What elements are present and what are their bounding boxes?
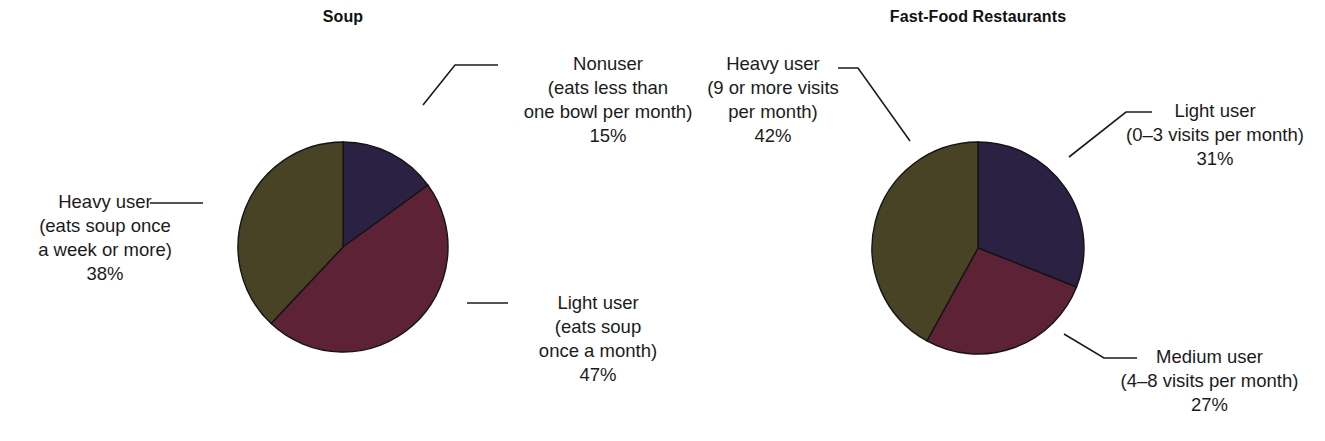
callout-label-line1: Heavy user [668,52,878,76]
callout-fastfood-light-user: Light user (0–3 visits per month) 31% [1105,99,1325,171]
leader-line-soup-nonuser [423,65,498,105]
callout-value: 31% [1105,147,1325,171]
callout-fastfood-medium-user: Medium user (4–8 visits per month) 27% [1097,345,1322,417]
callout-label-line1: Heavy user [0,190,210,214]
callout-fastfood-heavy-user: Heavy user (9 or more visits per month) … [668,52,878,148]
callout-soup-light-user: Light user (eats soup once a month) 47% [508,291,688,387]
callout-soup-heavy-user: Heavy user (eats soup once a week or mor… [0,190,210,286]
callout-value: 47% [508,363,688,387]
callout-label-line1: Light user [508,291,688,315]
callout-value: 27% [1097,393,1322,417]
callout-value: 38% [0,262,210,286]
pie-fast-food-restaurants [872,142,1084,354]
callout-label-line2: (4–8 visits per month) [1097,369,1322,393]
callout-label-line3: once a month) [508,339,688,363]
callout-label-line2: (eats soup [508,315,688,339]
callout-label-line2: (0–3 visits per month) [1105,123,1325,147]
callout-label-line2: (eats soup once [0,214,210,238]
pie-chart-figure: Soup Fast-Food Restaurants Nonuser (eats… [0,0,1325,441]
callout-value: 42% [668,124,878,148]
callout-label-line3: a week or more) [0,238,210,262]
callout-label-line1: Light user [1105,99,1325,123]
pie-soup [238,142,448,352]
callout-label-line3: per month) [668,100,878,124]
callout-label-line2: (9 or more visits [668,76,878,100]
callout-label-line1: Medium user [1097,345,1322,369]
